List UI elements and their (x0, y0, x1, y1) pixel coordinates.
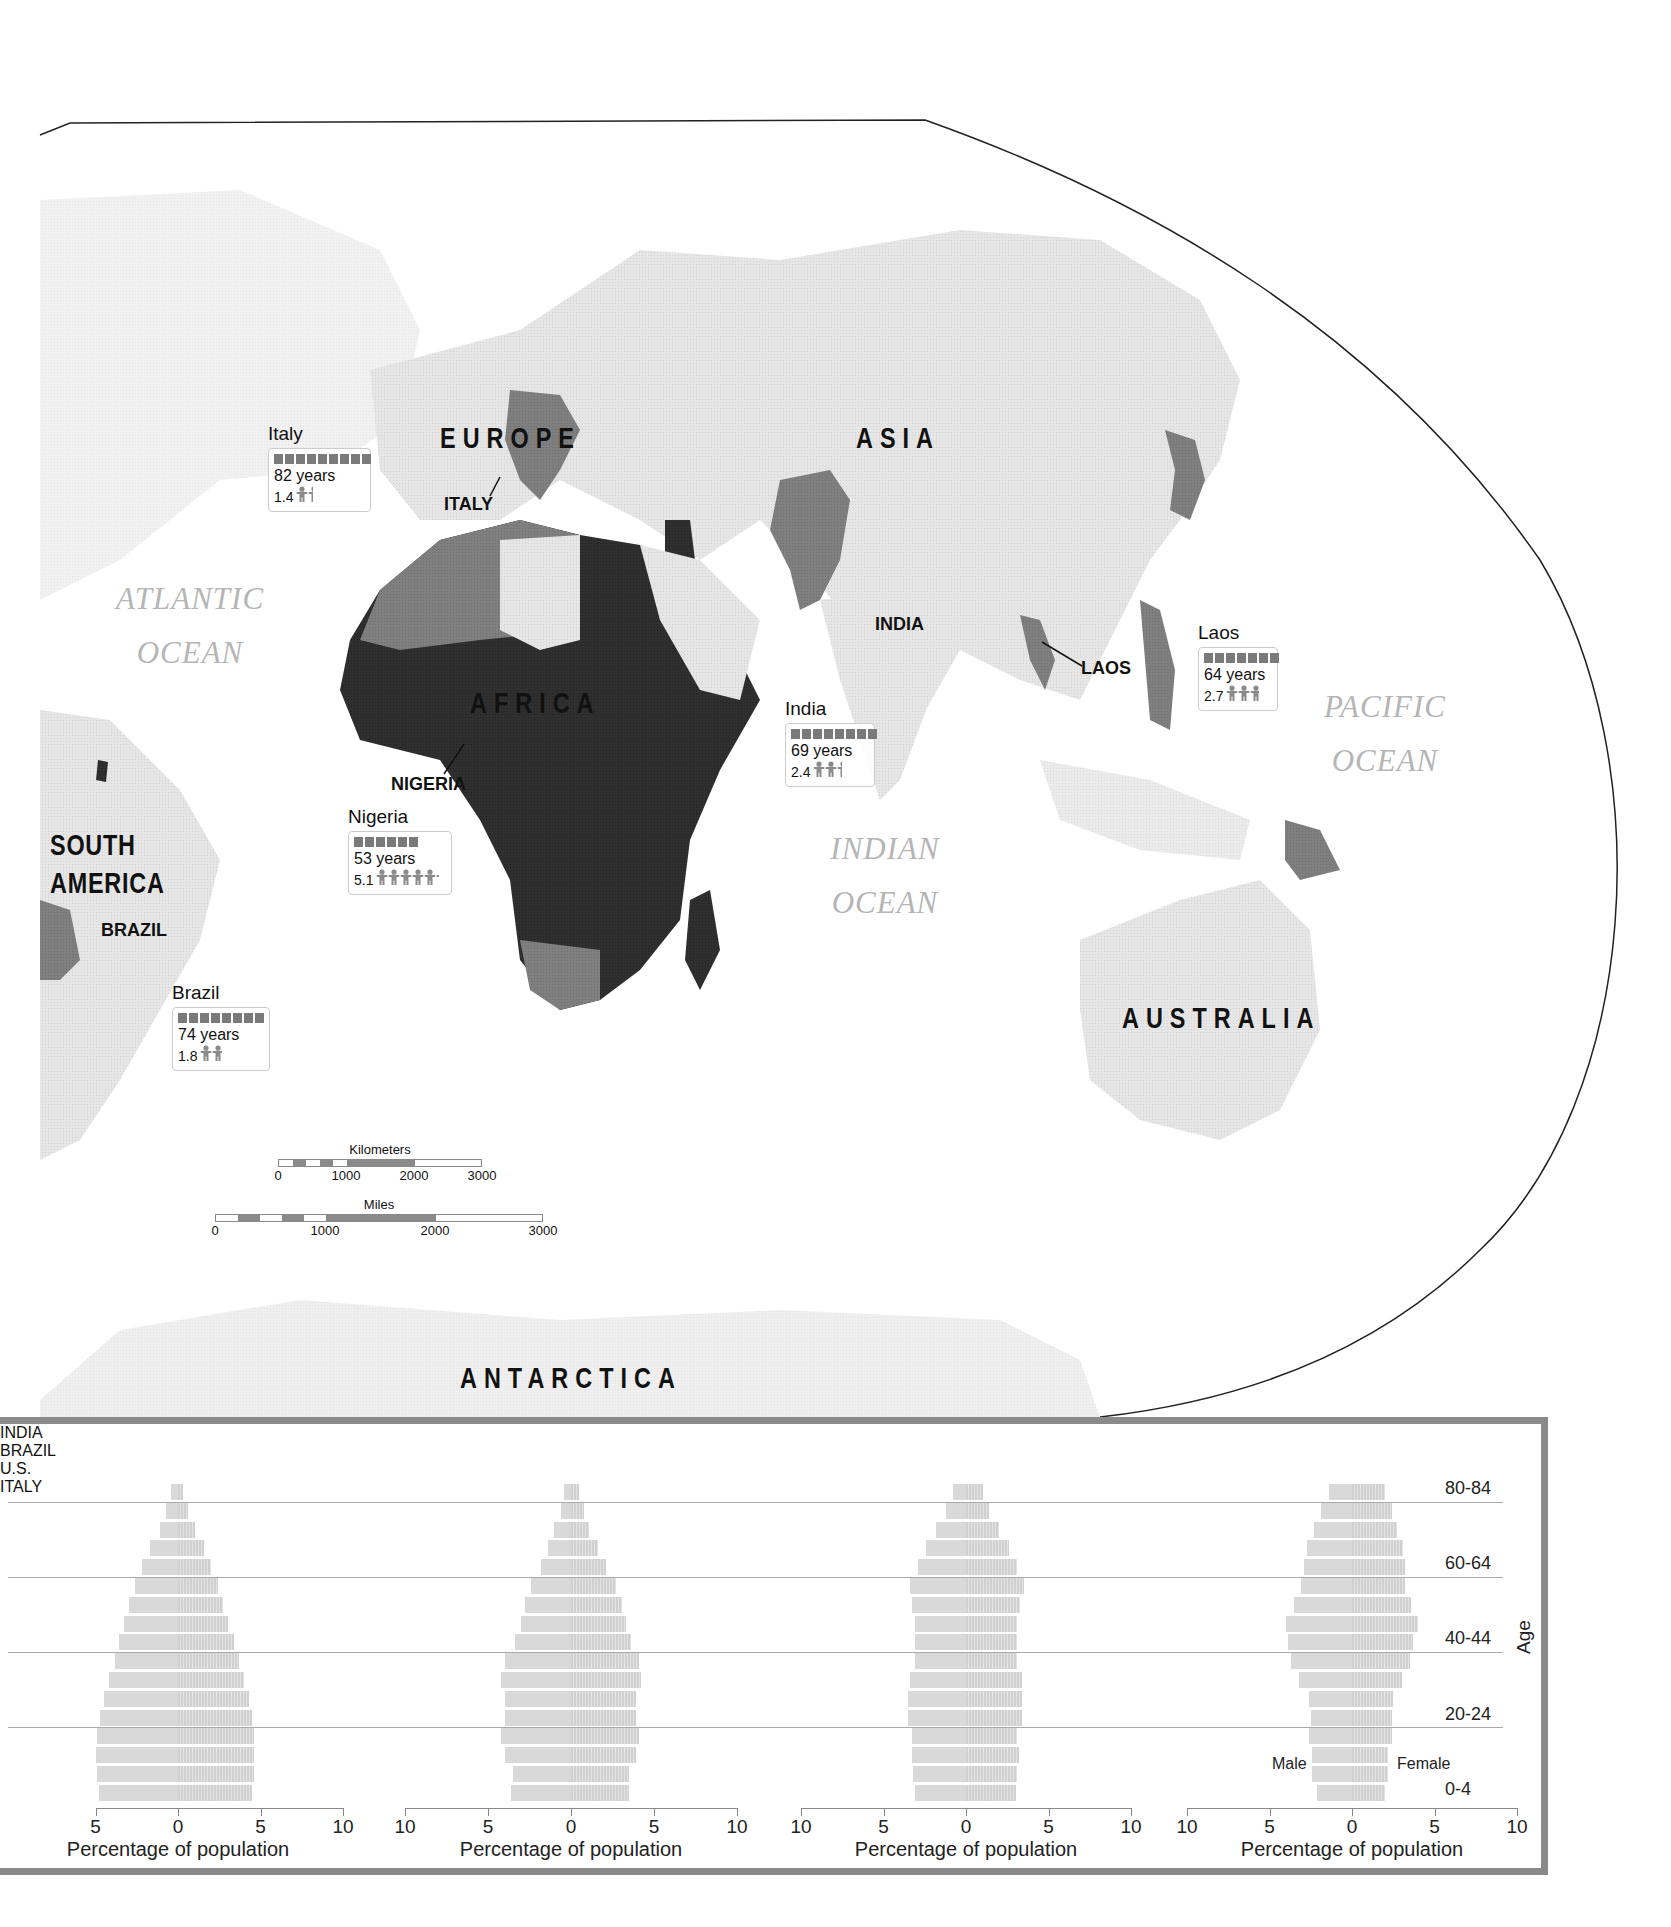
male-bar (915, 1653, 966, 1669)
x-tick (1270, 1808, 1271, 1816)
male-bar (1317, 1785, 1352, 1801)
x-tick-label: 10 (790, 1816, 811, 1838)
country-label-italy: ITALY (444, 494, 493, 515)
male-bar (1311, 1710, 1352, 1726)
person-icon (424, 869, 436, 885)
person-icons (376, 869, 439, 890)
continent-label-africa: AFRICA (470, 686, 601, 720)
male-bar (918, 1559, 966, 1575)
person-icon (400, 869, 412, 885)
female-bar (178, 1484, 183, 1500)
country-label-laos: LAOS (1081, 658, 1131, 679)
country-label-nigeria: NIGERIA (391, 774, 466, 795)
callout-title: India (785, 698, 875, 720)
x-tick-label: 5 (483, 1816, 494, 1838)
age-label: 40-44 (1445, 1628, 1491, 1649)
life-expectancy-bar (274, 454, 365, 464)
continent-label-antarctica: ANTARCTICA (460, 1361, 682, 1395)
continent-label-australia: AUSTRALIA (1122, 1001, 1320, 1035)
x-tick-label: 0 (1347, 1816, 1358, 1838)
male-bar (115, 1653, 178, 1669)
life-expectancy-value: 69 years (791, 741, 869, 761)
person-icons (1226, 685, 1258, 706)
indonesia-region (1040, 760, 1250, 860)
male-bar (926, 1540, 966, 1556)
life-expectancy-bar (354, 837, 446, 847)
male-bar (505, 1691, 571, 1707)
x-tick-label: 5 (255, 1816, 266, 1838)
male-bar (104, 1691, 178, 1707)
male-bar (1314, 1522, 1352, 1538)
fertility-rate: 2.7 (1204, 685, 1272, 706)
male-bar (910, 1672, 966, 1688)
female-bar (178, 1522, 195, 1538)
female-bar (571, 1522, 589, 1538)
callout-title: Nigeria (348, 806, 452, 828)
female-bar (571, 1785, 629, 1801)
male-bar (1286, 1616, 1352, 1632)
antarctica-landmass (40, 1300, 1100, 1417)
x-tick-label: 5 (1043, 1816, 1054, 1838)
male-bar (912, 1597, 966, 1613)
x-tick-label: 0 (566, 1816, 577, 1838)
x-tick (737, 1808, 738, 1816)
female-bar (178, 1634, 234, 1650)
continent-label-europe: EUROPE (440, 421, 581, 455)
x-tick-label: 10 (1120, 1816, 1141, 1838)
person-icons (296, 486, 313, 507)
male-bar (505, 1653, 571, 1669)
population-pyramids-panel: INDIA50510Percentage of populationBRAZIL… (0, 1417, 1548, 1875)
fertility-rate: 5.1 (354, 869, 446, 890)
female-bar (1352, 1484, 1385, 1500)
female-bar (1352, 1672, 1402, 1688)
male-bar (1288, 1634, 1352, 1650)
male-bar (109, 1672, 178, 1688)
female-bar (966, 1578, 1024, 1594)
x-tick (1131, 1808, 1132, 1816)
madagascar (685, 890, 720, 990)
x-tick-label: 5 (649, 1816, 660, 1838)
x-tick (261, 1808, 262, 1816)
x-axis-label: Percentage of population (441, 1838, 701, 1861)
male-bar (97, 1728, 178, 1744)
female-bar (966, 1616, 1017, 1632)
male-bar (1307, 1540, 1352, 1556)
laos-leader-line (1040, 640, 1084, 670)
female-bar (1352, 1785, 1385, 1801)
life-expectancy-value: 74 years (178, 1025, 264, 1045)
female-bar (966, 1785, 1016, 1801)
person-icon (825, 761, 837, 777)
male-bar (100, 1710, 178, 1726)
female-bar (966, 1484, 983, 1500)
female-bar (966, 1653, 1017, 1669)
callout-title: Laos (1198, 622, 1278, 644)
x-tick-label: 5 (1429, 1816, 1440, 1838)
x-tick-label: 10 (1176, 1816, 1197, 1838)
x-tick-label: 5 (878, 1816, 889, 1838)
x-tick (654, 1808, 655, 1816)
fertility-rate: 2.4 (791, 761, 869, 782)
life-expectancy-bar (1204, 653, 1272, 663)
life-expectancy-value: 53 years (354, 849, 446, 869)
female-bar (178, 1785, 252, 1801)
legend-male: Male (1272, 1755, 1307, 1773)
life-expectancy-bar (178, 1013, 264, 1023)
partial-person-icon (308, 486, 313, 502)
x-tick-label: 0 (173, 1816, 184, 1838)
female-bar (1352, 1559, 1405, 1575)
female-bar (178, 1616, 228, 1632)
female-bar (1352, 1747, 1388, 1763)
person-icon (376, 869, 388, 885)
age-label: 20-24 (1445, 1704, 1491, 1725)
female-bar (571, 1503, 584, 1519)
female-bar (966, 1691, 1022, 1707)
female-bar (1352, 1728, 1392, 1744)
male-bar (505, 1747, 571, 1763)
person-icon (296, 486, 308, 502)
male-bar (1294, 1597, 1352, 1613)
x-tick-label: 5 (90, 1816, 101, 1838)
x-tick-label: 10 (1506, 1816, 1527, 1838)
nigeria-leader-line (440, 740, 470, 776)
female-bar (966, 1559, 1017, 1575)
male-bar (915, 1616, 966, 1632)
